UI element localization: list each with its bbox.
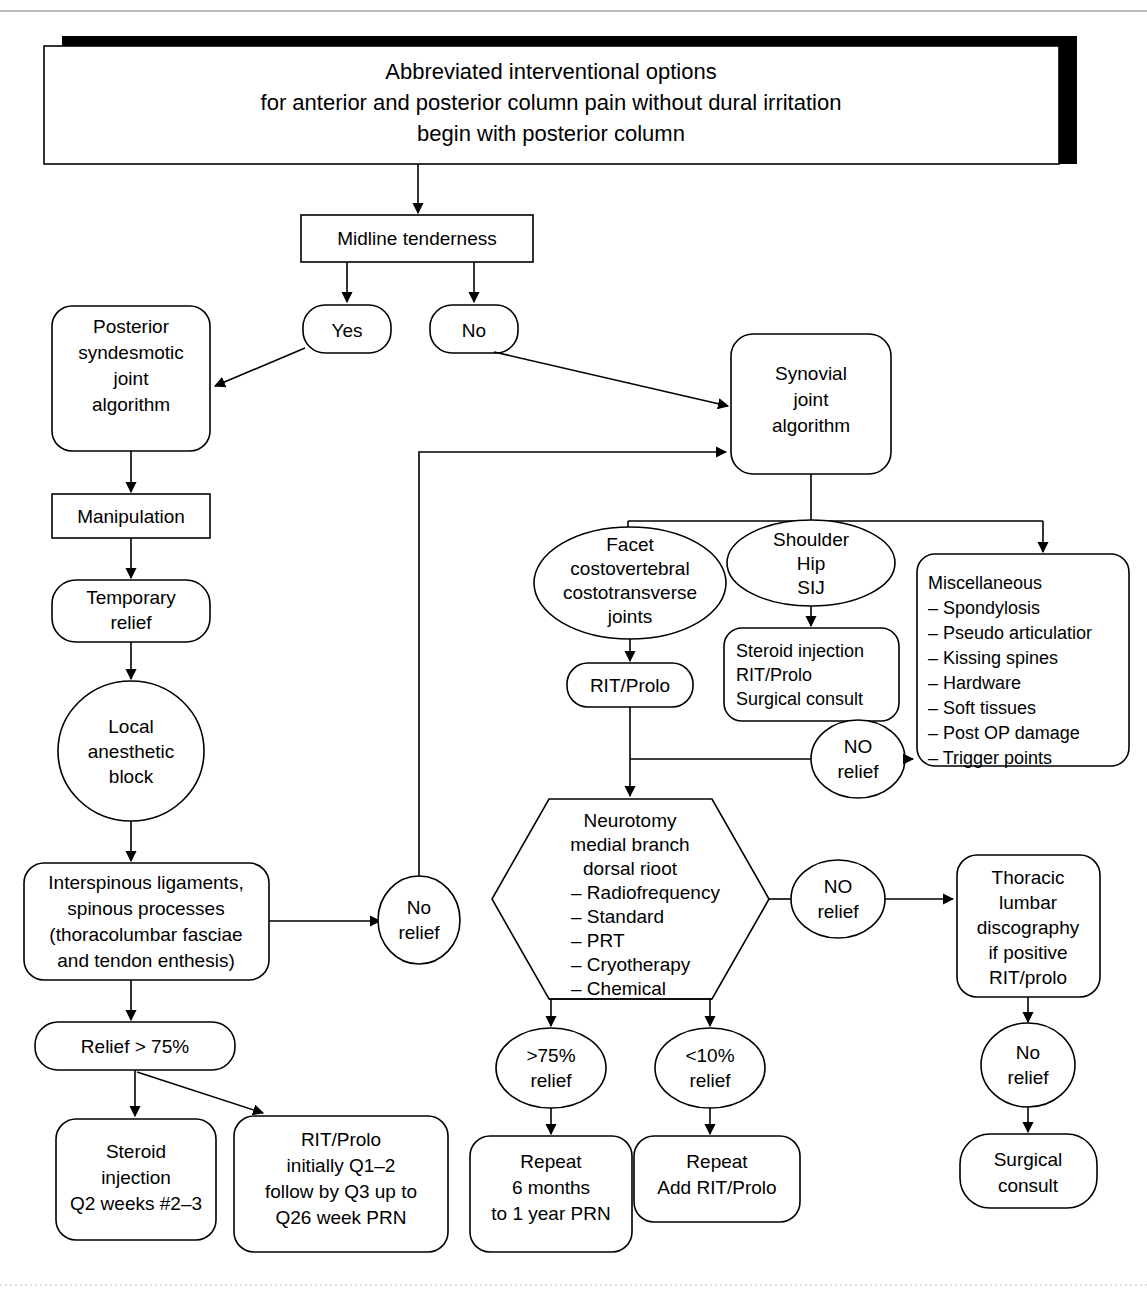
label-misc-line-4: – Kissing spines [928, 648, 1058, 668]
node-relief-gt75 [496, 1028, 606, 1108]
label-midline-tenderness: Midline tenderness [337, 228, 496, 249]
label-rit-sched-line-3: follow by Q3 up to [265, 1181, 417, 1202]
node-no-relief-upper-right [811, 720, 905, 798]
label-interspinous-line-3: (thoracolumbar fasciae [49, 924, 242, 945]
label-misc-line-2: – Spondylosis [928, 598, 1040, 618]
label-shsij-line-2: Hip [797, 553, 826, 574]
label-posterior-line-4: algorithm [92, 394, 170, 415]
label-steroid-right-line-1: Steroid injection [736, 641, 864, 661]
node-surgical-consult [960, 1134, 1097, 1208]
label-norelief-fr-line-1: No [1016, 1042, 1040, 1063]
label-relief-lt10-line-1: <10% [685, 1045, 734, 1066]
label-steroid-left-line-3: Q2 weeks #2–3 [70, 1193, 202, 1214]
label-rit-prolo-small: RIT/Prolo [590, 675, 670, 696]
label-norelief-mid-line-1: No [407, 897, 431, 918]
flowchart-diagram: Abbreviated interventional options for a… [0, 0, 1147, 1291]
edge-relief75-to-ritprolo [137, 1072, 263, 1113]
label-repeat6-line-1: Repeat [520, 1151, 582, 1172]
label-posterior-line-2: syndesmotic [78, 342, 184, 363]
label-relief-gt75-line-2: relief [530, 1070, 572, 1091]
label-steroid-left-line-2: injection [101, 1167, 171, 1188]
label-thoracic-line-2: lumbar [999, 892, 1058, 913]
label-thoracic-line-3: discography [977, 917, 1080, 938]
label-repeatadd-line-1: Repeat [686, 1151, 748, 1172]
label-misc-line-1: Miscellaneous [928, 573, 1042, 593]
label-rit-sched-line-2: initially Q1–2 [287, 1155, 396, 1176]
title-line-2: for anterior and posterior column pain w… [261, 90, 842, 115]
label-shsij-line-1: Shoulder [773, 529, 850, 550]
label-repeat6-line-3: to 1 year PRN [491, 1203, 610, 1224]
label-neurotomy-line-3: dorsal rioot [583, 858, 678, 879]
edge-yes-to-posterior [215, 348, 305, 386]
title-line-3: begin with posterior column [417, 121, 685, 146]
label-interspinous-line-1: Interspinous ligaments, [48, 872, 243, 893]
label-relief-gt75-line-1: >75% [526, 1045, 575, 1066]
label-norelief-fr-line-2: relief [1007, 1067, 1049, 1088]
label-rit-sched-line-4: Q26 week PRN [276, 1207, 407, 1228]
label-facet-line-4: joints [607, 606, 652, 627]
label-thoracic-line-5: RIT/prolo [989, 967, 1067, 988]
label-neurotomy-line-2: medial branch [570, 834, 689, 855]
label-neurotomy-item-5: – Chemical [571, 978, 666, 999]
label-thoracic-line-4: if positive [988, 942, 1067, 963]
label-rit-sched-line-1: RIT/Prolo [301, 1129, 381, 1150]
label-yes: Yes [332, 320, 363, 341]
label-misc-line-8: – Trigger points [928, 748, 1052, 768]
label-no: No [462, 320, 486, 341]
label-steroid-left-line-1: Steroid [106, 1141, 166, 1162]
label-norelief-mid-line-2: relief [398, 922, 440, 943]
label-interspinous-line-4: and tendon enthesis) [57, 950, 234, 971]
label-relief-75: Relief > 75% [81, 1036, 189, 1057]
label-facet-line-2: costovertebral [570, 558, 689, 579]
label-synovial-line-1: Synovial [775, 363, 847, 384]
label-neurotomy-item-2: – Standard [571, 906, 664, 927]
label-neurotomy-line-1: Neurotomy [584, 810, 677, 831]
node-no-relief-far-right [981, 1023, 1075, 1107]
label-steroid-right-line-3: Surgical consult [736, 689, 863, 709]
label-synovial-line-2: joint [793, 389, 830, 410]
label-surgical-line-1: Surgical [994, 1149, 1063, 1170]
label-posterior-line-3: joint [113, 368, 150, 389]
label-temporary-line-1: Temporary [86, 587, 176, 608]
title-line-1: Abbreviated interventional options [385, 59, 716, 84]
label-repeat6-line-2: 6 months [512, 1177, 590, 1198]
label-synovial-line-3: algorithm [772, 415, 850, 436]
label-relief-lt10-line-2: relief [689, 1070, 731, 1091]
label-misc-line-5: – Hardware [928, 673, 1021, 693]
label-facet-line-1: Facet [606, 534, 654, 555]
label-misc-line-7: – Post OP damage [928, 723, 1080, 743]
label-block-line-1: Local [108, 716, 153, 737]
label-neurotomy-item-4: – Cryotherapy [571, 954, 691, 975]
label-shsij-line-3: SIJ [797, 577, 824, 598]
node-no-relief-mid [378, 876, 460, 964]
label-steroid-right-line-2: RIT/Prolo [736, 665, 812, 685]
label-norelief-ur-line-1: NO [844, 736, 873, 757]
label-norelief-lr-line-2: relief [817, 901, 859, 922]
edge-no-to-synovial [494, 352, 728, 406]
label-block-line-2: anesthetic [88, 741, 175, 762]
label-surgical-line-2: consult [998, 1175, 1059, 1196]
label-manipulation: Manipulation [77, 506, 185, 527]
label-facet-line-3: costotransverse [563, 582, 697, 603]
label-norelief-lr-line-1: NO [824, 876, 853, 897]
label-neurotomy-item-1: – Radiofrequency [571, 882, 720, 903]
label-norelief-ur-line-2: relief [837, 761, 879, 782]
label-misc-line-6: – Soft tissues [928, 698, 1036, 718]
node-relief-lt10 [655, 1028, 765, 1108]
label-repeatadd-line-2: Add RIT/Prolo [657, 1177, 776, 1198]
label-interspinous-line-2: spinous processes [67, 898, 224, 919]
label-thoracic-line-1: Thoracic [992, 867, 1065, 888]
label-neurotomy-item-3: – PRT [571, 930, 625, 951]
label-misc-line-3: – Pseudo articulatior [928, 623, 1092, 643]
label-posterior-line-1: Posterior [93, 316, 170, 337]
label-temporary-line-2: relief [110, 612, 152, 633]
label-block-line-3: block [109, 766, 154, 787]
node-no-relief-lower-right [791, 860, 885, 938]
flowchart-canvas: Abbreviated interventional options for a… [0, 0, 1147, 1291]
